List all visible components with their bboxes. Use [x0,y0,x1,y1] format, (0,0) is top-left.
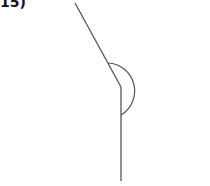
angle-diagram [0,0,210,186]
slanted-ray [75,3,121,87]
